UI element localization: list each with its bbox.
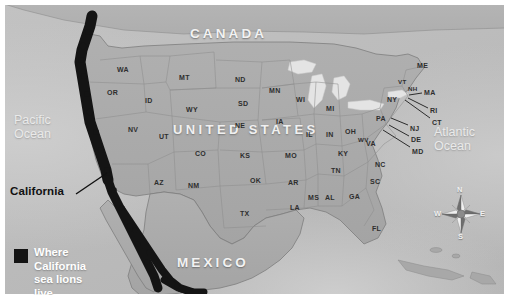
sea-lion-range-map: CANADAMEXICO UNITED STATES Pacific Ocean… xyxy=(0,0,509,299)
caribbean-islands xyxy=(398,248,496,284)
leader-line-ma xyxy=(409,93,422,95)
compass-west-label: W xyxy=(434,209,441,218)
leader-line-de xyxy=(389,125,409,136)
compass-north-label: N xyxy=(457,185,462,194)
leader-line-ri xyxy=(408,98,428,108)
leader-line-md xyxy=(383,130,410,147)
legend-text: Where California sea lions live xyxy=(34,246,86,295)
map-plate: CANADAMEXICO UNITED STATES Pacific Ocean… xyxy=(4,4,505,295)
compass-south-label: S xyxy=(458,232,463,241)
legend-line-2: sea lions live xyxy=(34,273,82,295)
compass-east-label: E xyxy=(480,209,485,218)
legend-swatch xyxy=(14,249,28,263)
leader-line-nj xyxy=(391,118,408,125)
legend-line-1: Where California xyxy=(34,246,86,272)
california-leader-line xyxy=(76,173,107,194)
compass-rose: N E S W xyxy=(433,185,489,243)
